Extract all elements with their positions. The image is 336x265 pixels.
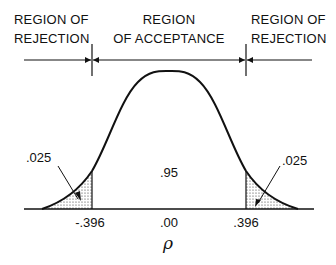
reject-right-label-2: REJECTION [251,31,326,46]
hypothesis-test-chart: REGION OF REJECTION REGION OF ACCEPTANCE… [0,0,336,265]
accept-label-2: OF ACCEPTANCE [113,31,225,46]
x-axis-label: ρ [162,233,173,253]
reject-left-label-1: REGION OF [14,12,89,27]
right-tail-value: .025 [282,153,307,168]
tick-label-left: -.396 [75,215,105,230]
right-tail-shading [246,171,298,209]
left-tail-shading [42,171,92,209]
tick-label-center: .00 [160,215,178,230]
accept-label-1: REGION [143,12,195,27]
left-tail-pointer [58,166,78,199]
center-area-value: .95 [160,165,178,180]
reject-right-label-1: REGION OF [251,12,326,27]
tick-label-right: .396 [233,215,258,230]
reject-left-label-2: REJECTION [14,31,89,46]
left-tail-value: .025 [26,150,51,165]
